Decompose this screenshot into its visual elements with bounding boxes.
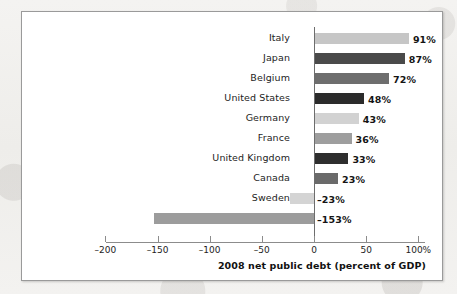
- x-axis-tick-label: 0: [311, 245, 317, 255]
- x-axis-tick: [105, 236, 106, 242]
- bar: [314, 133, 352, 144]
- bar-value-label: 36%: [356, 134, 379, 145]
- x-axis-tick: [158, 236, 159, 242]
- x-axis-tick-label: –150: [147, 245, 169, 255]
- bar-value-label: 23%: [342, 174, 365, 185]
- x-axis-tick-label: –50: [254, 245, 270, 255]
- bar-value-label: –153%: [317, 214, 352, 225]
- bar-series: 91%87%72%48%43%36%33%23%–23%–153%: [22, 12, 442, 280]
- bar-value-label: 33%: [352, 154, 375, 165]
- bar: [314, 113, 359, 124]
- x-axis-tick: [418, 236, 419, 242]
- x-axis-title: 2008 net public debt (percent of GDP): [22, 260, 426, 271]
- x-axis-tick-label: 100%: [405, 245, 431, 255]
- x-axis-tick-label: 50: [360, 245, 371, 255]
- bar-value-label: 91%: [413, 34, 436, 45]
- bar-value-label: 48%: [368, 94, 391, 105]
- x-axis-tick: [262, 236, 263, 242]
- chart-figure-frame: ItalyJapanBelgiumUnited StatesGermanyFra…: [21, 11, 443, 281]
- x-axis-tick-label: –200: [95, 245, 117, 255]
- x-axis-line: [106, 242, 425, 243]
- chart-plot-area: ItalyJapanBelgiumUnited StatesGermanyFra…: [22, 12, 442, 280]
- x-axis-tick: [366, 236, 367, 242]
- x-axis-tick-label: –100: [199, 245, 221, 255]
- zero-reference-line: [314, 27, 315, 242]
- bar-value-label: 72%: [393, 74, 416, 85]
- bar: [314, 53, 405, 64]
- bar: [290, 193, 314, 204]
- bar: [154, 213, 314, 224]
- bar: [314, 33, 409, 44]
- x-axis-tick: [314, 236, 315, 242]
- bar-value-label: 43%: [363, 114, 386, 125]
- bar: [314, 73, 389, 84]
- bar: [314, 93, 364, 104]
- bar-value-label: 87%: [409, 54, 432, 65]
- bar: [314, 173, 338, 184]
- bar-value-label: –23%: [317, 194, 345, 205]
- x-axis-tick: [210, 236, 211, 242]
- bar: [314, 153, 348, 164]
